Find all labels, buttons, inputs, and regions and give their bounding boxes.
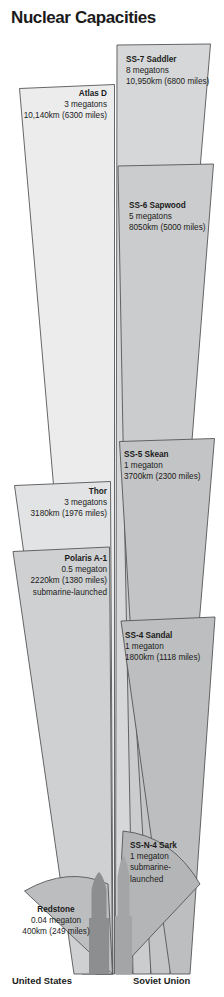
label-polaris-a-1-yield: 0.5 megaton [0,564,107,575]
label-ss-6-sapwood-range: 8050km (5000 miles) [129,222,224,233]
label-ss-7-saddler-yield: 8 megatons [126,65,224,76]
label-atlas-d-range: 10,140km (6300 miles) [0,110,107,121]
label-ss-7-saddler-name: SS-7 Saddler [126,54,224,65]
label-ss-5-skean: SS-5 Skean 1 megaton 3700km (2300 miles) [124,449,224,483]
label-thor-name: Thor [0,486,107,497]
label-redstone: Redstone 0.04 megaton 400km (249 miles) [8,904,104,938]
label-ss-4-sandal: SS-4 Sandal 1 megaton 1800km (1118 miles… [125,630,224,664]
label-thor: Thor 3 megatons 3180km (1976 miles) [0,486,107,520]
label-atlas-d-name: Atlas D [0,88,107,99]
label-ss-4-sandal-yield: 1 megaton [125,641,224,652]
label-redstone-yield: 0.04 megaton [8,915,104,926]
label-polaris-a-1-name: Polaris A-1 [0,553,107,564]
label-redstone-range: 400km (249 miles) [8,926,104,937]
label-atlas-d: Atlas D 3 megatons 10,140km (6300 miles) [0,88,107,122]
label-polaris-a-1: Polaris A-1 0.5 megaton 2220km (1380 mil… [0,553,107,598]
caption-soviet-union: Soviet Union [133,975,190,986]
label-thor-range: 3180km (1976 miles) [0,508,107,519]
nuclear-capacities-infographic: Nuclear Capacities [0,0,224,997]
label-ss-7-saddler: SS-7 Saddler 8 megatons 10,950km (6800 m… [126,54,224,88]
label-ss-7-saddler-range: 10,950km (6800 miles) [126,76,224,87]
label-ss-n-4-sark: SS-N-4 Sark 1 megaton submarine- launche… [130,840,224,885]
label-ss-5-skean-name: SS-5 Skean [124,449,224,460]
label-ss-6-sapwood-name: SS-6 Sapwood [129,200,224,211]
label-ss-5-skean-range: 3700km (2300 miles) [124,471,224,482]
label-ss-n-4-sark-yield: 1 megaton [130,851,224,862]
label-ss-5-skean-yield: 1 megaton [124,460,224,471]
label-ss-4-sandal-name: SS-4 Sandal [125,630,224,641]
label-atlas-d-yield: 3 megatons [0,99,107,110]
label-ss-n-4-sark-name: SS-N-4 Sark [130,840,224,851]
label-polaris-a-1-extra: submarine-launched [0,587,107,598]
label-ss-n-4-sark-extra2: launched [130,874,224,885]
caption-united-states: United States [12,975,72,986]
label-ss-4-sandal-range: 1800km (1118 miles) [125,652,224,663]
label-redstone-name: Redstone [8,904,104,915]
label-ss-6-sapwood: SS-6 Sapwood 5 megatons 8050km (5000 mil… [129,200,224,234]
label-thor-yield: 3 megatons [0,497,107,508]
label-polaris-a-1-range: 2220km (1380 miles) [0,575,107,586]
label-ss-6-sapwood-yield: 5 megatons [129,211,224,222]
label-ss-n-4-sark-extra: submarine- [130,862,224,873]
